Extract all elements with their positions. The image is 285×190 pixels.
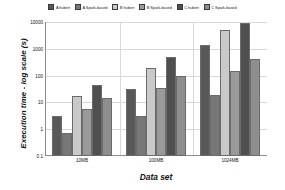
bar-group [119,22,193,156]
chart-legend: A hubertA Spark-basedB hubertB Spark-bas… [0,4,285,10]
legend-item-label: B Spark-based [147,5,172,10]
legend-item-label: A Spark-based [82,5,107,10]
bar[interactable] [102,98,112,156]
bar[interactable] [156,88,166,156]
bar[interactable] [72,96,82,156]
bar-group [45,22,119,156]
legend-swatch-icon [139,4,145,10]
bar[interactable] [240,23,250,156]
bar-group [193,22,267,156]
bar[interactable] [136,116,146,156]
legend-item[interactable]: A hubert [48,4,70,10]
x-axis-tick-label: 10MB [45,158,119,164]
bar[interactable] [176,76,186,156]
bar[interactable] [92,85,102,156]
bar[interactable] [52,116,62,156]
legend-swatch-icon [204,4,210,10]
bar[interactable] [126,89,136,156]
bar[interactable] [200,45,210,156]
legend-swatch-icon [75,4,81,10]
bar[interactable] [146,68,156,156]
x-axis-tick-label: 100MB [119,158,193,164]
legend-item[interactable]: C hubert [177,4,199,10]
legend-item-label: B hubert [120,5,134,10]
x-axis-tick-label: 1024MB [193,158,267,164]
bar-chart: A hubertA Spark-basedB hubertB Spark-bas… [0,0,285,190]
bar[interactable] [250,59,260,156]
legend-swatch-icon [112,4,118,10]
legend-item[interactable]: B hubert [112,4,134,10]
bar[interactable] [82,109,92,156]
bars-layer [45,22,267,156]
y-axis-title: Execution time - log scale (s) [19,24,28,164]
legend-item-label: C Spark-based [211,5,236,10]
bar[interactable] [62,133,72,156]
legend-swatch-icon [48,4,54,10]
bar[interactable] [166,57,176,156]
legend-swatch-icon [177,4,183,10]
bar[interactable] [210,95,220,156]
bar[interactable] [220,30,230,156]
legend-item-label: C hubert [184,5,199,10]
bar[interactable] [230,71,240,156]
legend-item[interactable]: C Spark-based [204,4,237,10]
x-axis-tick-labels: 10MB100MB1024MB [45,158,267,164]
x-axis-title: Data set [45,172,267,182]
legend-item-label: A hubert [56,5,70,10]
legend-item[interactable]: B Spark-based [139,4,172,10]
legend-item[interactable]: A Spark-based [75,4,107,10]
